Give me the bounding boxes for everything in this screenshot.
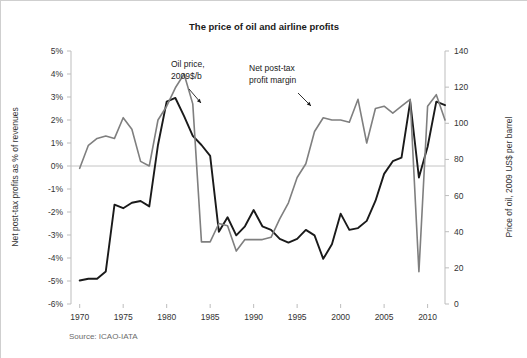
right-axis-tick-label: 40 [454,227,464,237]
right-axis-tick-label: 20 [454,263,464,273]
chart-title: The price of oil and airline profits [189,21,339,32]
right-axis-tick-label: 60 [454,191,464,201]
chart-container: The price of oil and airline profits 5%4… [0,0,527,358]
x-axis-tick-label: 1970 [70,312,89,322]
right-axis-tick-label: 120 [454,82,468,92]
x-axis-tick-label: 1975 [114,312,133,322]
left-axis-tick-label: -2% [48,207,64,217]
source-note: Source: ICAO-IATA [69,332,138,341]
right-axis-title: Price of oil, 2009 US$ per barrel [504,116,514,237]
oil-price-airline-profits-chart: The price of oil and airline profits 5%4… [1,1,527,358]
right-axis-tick-label: 0 [454,299,459,309]
left-axis-tick-label: 1% [51,138,64,148]
right-axis-tick-label: 140 [454,46,468,56]
x-axis-tick-label: 2010 [418,312,437,322]
left-axis-tick-label: 0% [51,161,64,171]
left-axis-tick-label: -1% [48,184,64,194]
left-axis-tick-label: -3% [48,230,64,240]
x-axis-tick-label: 1985 [201,312,220,322]
right-axis-tick-label: 100 [454,118,468,128]
oil-price-annotation-line2: 2009$/b [171,71,202,81]
x-axis-tick-label: 1995 [288,312,307,322]
x-axis-tick-label: 2005 [375,312,394,322]
left-axis-tick-label: 4% [51,69,64,79]
x-axis-tick-label: 2000 [331,312,350,322]
left-axis-title: Net post-tax profits as % of revenues [10,107,20,246]
left-axis-tick-label: 3% [51,92,64,102]
x-axis-tick-label: 1990 [244,312,263,322]
left-axis-tick-label: -5% [48,276,64,286]
profit-margin-annotation-line2: profit margin [249,75,297,85]
right-axis-tick-label: 80 [454,154,464,164]
oil-price-annotation-line1: Oil price, [171,59,205,69]
left-axis-tick-label: 2% [51,115,64,125]
x-axis-tick-label: 1980 [157,312,176,322]
left-axis-tick-label: -6% [48,299,64,309]
left-axis-tick-label: 5% [51,46,64,56]
profit-margin-annotation-line1: Net post-tax [249,63,296,73]
left-axis-tick-label: -4% [48,253,64,263]
